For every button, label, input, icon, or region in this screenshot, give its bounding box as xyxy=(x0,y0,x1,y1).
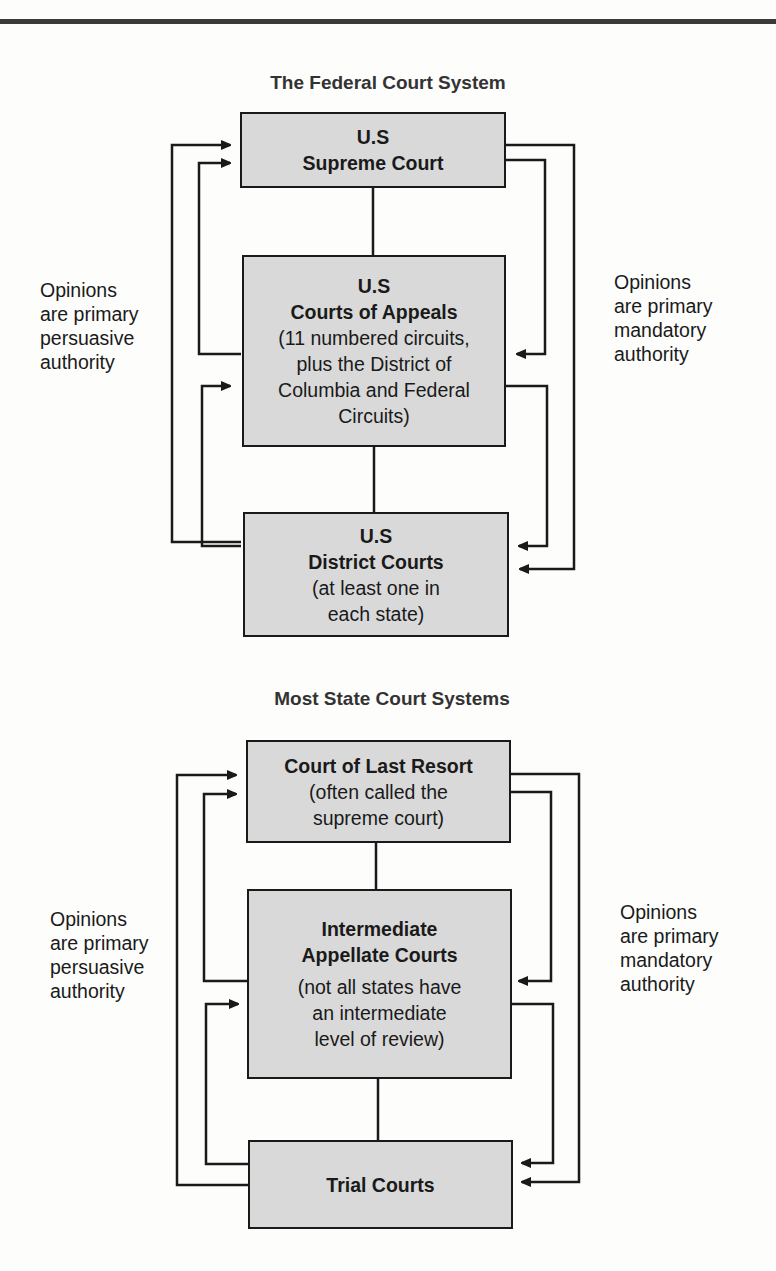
intermediate-line3: (not all states have xyxy=(298,974,462,1000)
trial-line1: Trial Courts xyxy=(326,1172,434,1198)
label-line: are primary xyxy=(620,924,719,948)
intermediate-line5: level of review) xyxy=(314,1026,444,1052)
label-line: Opinions xyxy=(614,270,713,294)
label-line: Opinions xyxy=(50,907,149,931)
trial-courts-box: Trial Courts xyxy=(248,1140,513,1229)
intermediate-line2: Appellate Courts xyxy=(301,942,457,968)
state-title: Most State Court Systems xyxy=(0,688,776,710)
district-courts-box: U.S District Courts (at least one in eac… xyxy=(243,512,509,637)
last-resort-line1: Court of Last Resort xyxy=(284,753,473,779)
appeals-line6: Circuits) xyxy=(338,403,410,429)
appeals-line4: plus the District of xyxy=(297,351,452,377)
label-line: persuasive xyxy=(40,326,139,350)
courts-of-appeals-box: U.S Courts of Appeals (11 numbered circu… xyxy=(242,255,506,447)
district-line4: each state) xyxy=(328,601,424,627)
appeals-line3: (11 numbered circuits, xyxy=(278,325,469,351)
district-line3: (at least one in xyxy=(312,575,440,601)
intermediate-appellate-courts-box: Intermediate Appellate Courts (not all s… xyxy=(247,889,512,1079)
appeals-line2: Courts of Appeals xyxy=(290,299,457,325)
label-line: Opinions xyxy=(620,900,719,924)
appeals-line1: U.S xyxy=(358,273,391,299)
label-line: Opinions xyxy=(40,278,139,302)
label-line: are primary xyxy=(614,294,713,318)
label-line: are primary xyxy=(50,931,149,955)
federal-left-label: Opinions are primary persuasive authorit… xyxy=(40,278,139,374)
last-resort-line2: (often called the xyxy=(309,779,448,805)
state-left-label: Opinions are primary persuasive authorit… xyxy=(50,907,149,1003)
supreme-line2: Supreme Court xyxy=(303,150,444,176)
label-line: persuasive xyxy=(50,955,149,979)
federal-title: The Federal Court System xyxy=(0,72,776,94)
state-right-label: Opinions are primary mandatory authority xyxy=(620,900,719,996)
last-resort-line3: supreme court) xyxy=(313,805,444,831)
supreme-line1: U.S xyxy=(357,124,390,150)
intermediate-line4: an intermediate xyxy=(312,1000,446,1026)
label-line: mandatory xyxy=(620,948,719,972)
label-line: authority xyxy=(620,972,719,996)
supreme-court-box: U.S Supreme Court xyxy=(240,112,506,188)
district-line2: District Courts xyxy=(308,549,443,575)
label-line: authority xyxy=(40,350,139,374)
label-line: mandatory xyxy=(614,318,713,342)
label-line: are primary xyxy=(40,302,139,326)
appeals-line5: Columbia and Federal xyxy=(278,377,470,403)
district-line1: U.S xyxy=(360,523,393,549)
label-line: authority xyxy=(614,342,713,366)
label-line: authority xyxy=(50,979,149,1003)
federal-right-label: Opinions are primary mandatory authority xyxy=(614,270,713,366)
court-of-last-resort-box: Court of Last Resort (often called the s… xyxy=(246,740,511,843)
intermediate-line1: Intermediate xyxy=(322,916,438,942)
